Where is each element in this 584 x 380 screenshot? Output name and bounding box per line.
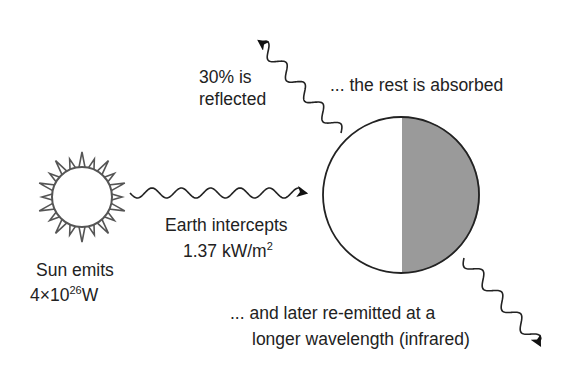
- reemitted-label-line2: longer wavelength (infrared): [252, 328, 470, 350]
- incoming-label-line1: Earth intercepts: [165, 214, 288, 236]
- sun-power-base: 4×10: [30, 285, 69, 305]
- earth-shaded-half: [402, 117, 480, 273]
- earth-icon: [323, 117, 480, 273]
- absorbed-label: ... the rest is absorbed: [330, 74, 503, 96]
- sun-icon: [39, 152, 125, 242]
- incoming-label-line2: 1.37 kW/m2: [183, 240, 273, 264]
- sun-power-unit: W: [82, 285, 99, 305]
- incoming-flux-value: 1.37 kW/m: [183, 241, 267, 261]
- sun-label-line2: 4×1026W: [30, 284, 98, 308]
- reemitted-label-line1: ... and later re-emitted at a: [230, 302, 435, 324]
- sun-label-line1: Sun emits: [36, 259, 114, 281]
- reflected-label-line2: reflected: [199, 88, 266, 110]
- earth-energy-balance-diagram: 30% is reflected ... the rest is absorbe…: [0, 0, 584, 380]
- incoming-flux-exponent: 2: [267, 240, 273, 252]
- sun-power-exponent: 26: [69, 284, 81, 296]
- reemitted-radiation-wave-arrow: [463, 258, 541, 345]
- incoming-radiation-wave-arrow: [130, 188, 306, 198]
- reflected-label-line1: 30% is: [199, 66, 252, 88]
